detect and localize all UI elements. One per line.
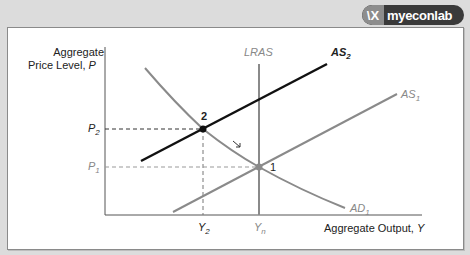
x-axis-label: Aggregate Output, Y bbox=[324, 222, 424, 234]
ad1-label-text: AD bbox=[350, 202, 365, 214]
y-axis-var: P bbox=[89, 59, 96, 71]
y-axis-label-text: Price Level, bbox=[28, 59, 89, 71]
p2-sub: 2 bbox=[95, 128, 99, 137]
as2-label-sub: 2 bbox=[346, 52, 350, 61]
y2-sub: 2 bbox=[205, 227, 209, 236]
as-ad-diagram bbox=[0, 0, 470, 255]
x-axis-label-text: Aggregate Output, bbox=[324, 222, 417, 234]
y-axis-label-line2: Price Level, P bbox=[28, 59, 96, 71]
lras-label: LRAS bbox=[244, 46, 273, 58]
x-axis-var: Y bbox=[417, 222, 424, 234]
point-1-label: 1 bbox=[270, 161, 276, 173]
equilibrium-point-1 bbox=[256, 164, 263, 171]
y-axis-label: Aggregate bbox=[49, 46, 104, 59]
y-axis-label-line1: Aggregate bbox=[49, 46, 104, 59]
as2-label: AS2 bbox=[331, 46, 351, 61]
as1-label: AS1 bbox=[401, 88, 420, 103]
ad1-label: AD1 bbox=[350, 202, 370, 217]
point-2-label: 2 bbox=[201, 110, 207, 122]
yn-sub: n bbox=[261, 227, 265, 236]
yn-tick-label: Yn bbox=[254, 221, 266, 236]
p1-sub: 1 bbox=[95, 166, 99, 175]
as2-label-text: AS bbox=[331, 46, 346, 58]
movement-arrow-icon bbox=[233, 141, 240, 147]
equilibrium-point-2 bbox=[200, 126, 207, 133]
as1-label-sub: 1 bbox=[416, 94, 420, 103]
y2-tick-label: Y2 bbox=[198, 221, 210, 236]
as1-label-text: AS bbox=[401, 88, 416, 100]
p2-tick-label: P2 bbox=[88, 122, 100, 137]
ad1-label-sub: 1 bbox=[365, 208, 369, 217]
p1-tick-label: P1 bbox=[88, 160, 100, 175]
